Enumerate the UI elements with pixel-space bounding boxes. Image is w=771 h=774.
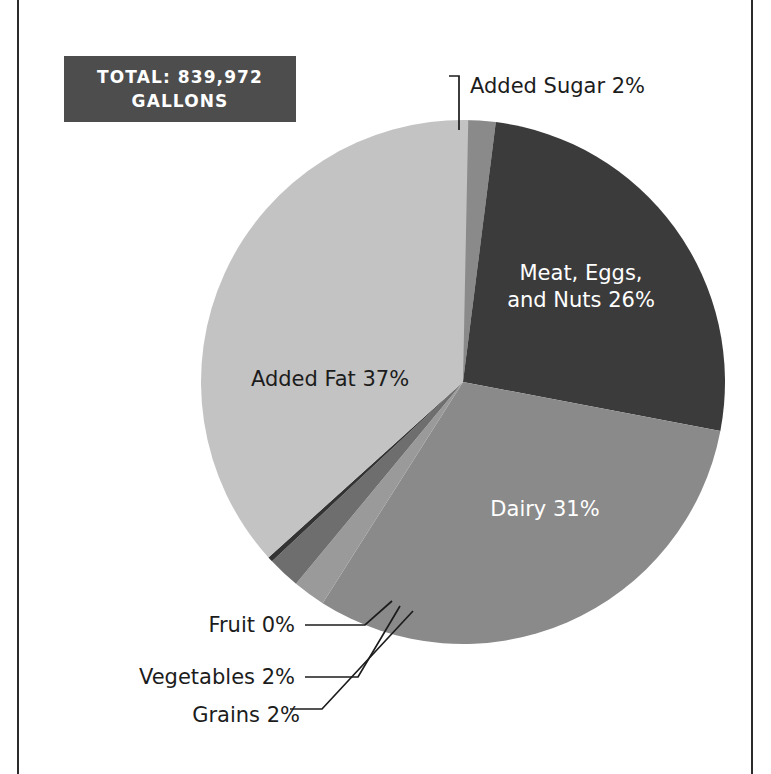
pie-slice-label: and Nuts 26% <box>507 288 655 312</box>
pie-callout-label: Fruit 0% <box>208 613 295 637</box>
pie-callout-label: Grains 2% <box>192 703 300 727</box>
pie-slice-label: Meat, Eggs, <box>519 261 642 285</box>
pie-slice-label: Added Fat 37% <box>251 367 409 391</box>
pie-callout-label: Vegetables 2% <box>139 665 295 689</box>
pie-chart: Meat, Eggs,and Nuts 26%Dairy 31%Added Fa… <box>0 0 771 774</box>
pie-callout-label: Added Sugar 2% <box>470 74 645 98</box>
pie-slice-label: Dairy 31% <box>490 497 599 521</box>
chart-page: TOTAL: 839,972 GALLONS Meat, Eggs,and Nu… <box>0 0 771 774</box>
